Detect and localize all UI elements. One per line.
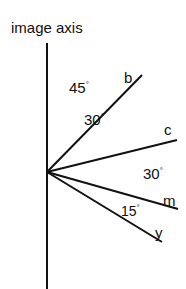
image-axis-title: image axis: [11, 19, 83, 36]
angle-15: 15°: [121, 203, 140, 219]
angle-diagram: image axis b c m y 45° 30° 30° 15°: [0, 0, 186, 289]
label-b: b: [124, 69, 132, 86]
angle-30-lower: 30°: [143, 165, 163, 182]
label-m: m: [163, 192, 176, 209]
label-c: c: [164, 121, 172, 138]
label-y: y: [155, 224, 163, 241]
angle-30-upper: 30°: [84, 111, 104, 128]
angle-45: 45°: [69, 79, 89, 96]
line-y: [47, 172, 162, 242]
